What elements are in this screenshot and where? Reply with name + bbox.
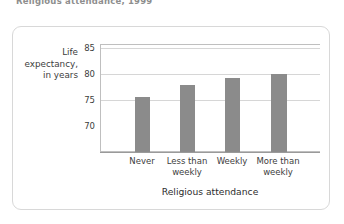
x-axis-title: Religious attendance [100,186,320,197]
x-axis-line [100,152,320,153]
y-tick-label-80: 80 [79,70,95,79]
y-tick-label-75: 75 [79,96,95,105]
gridline-80 [101,74,320,75]
x-tick-more-line-2: weekly [250,167,306,178]
x-tick-less-line-2: weekly [159,167,215,178]
y-axis-title-line-1: Life [16,47,78,59]
y-tick-label-85: 85 [79,44,95,53]
gridline-75 [101,100,320,101]
gridline-85 [101,48,320,49]
bar-weekly [225,78,240,152]
x-tick-label-more-than-weekly: More than weekly [250,156,306,177]
bar-more-than-weekly [271,74,287,152]
figure-container: Religious attendance, 1999 Life expectan… [0,0,344,224]
y-axis-title-line-2: expectancy, [16,59,78,71]
bar-less-than-weekly [180,85,195,152]
x-tick-more-line-1: More than [250,156,306,167]
y-tick-label-70: 70 [79,122,95,131]
y-axis-title: Life expectancy, in years [16,47,78,82]
figure-caption: Religious attendance, 1999 [16,0,246,8]
plot-area [100,44,320,152]
y-axis-title-line-3: in years [16,70,78,82]
bar-never [135,97,150,152]
